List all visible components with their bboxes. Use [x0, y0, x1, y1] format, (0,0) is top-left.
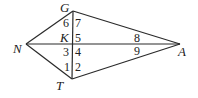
segment-ga [73, 11, 180, 44]
point-label-a: A [177, 44, 186, 59]
angle-label-2: 2 [75, 60, 81, 74]
angle-label-8: 8 [134, 31, 140, 45]
point-label-n: N [12, 41, 23, 56]
point-label-g: G [60, 0, 70, 15]
kite-diagram: G K N T A 6 7 5 3 4 1 2 8 9 [0, 0, 198, 98]
segment-ta [72, 44, 180, 79]
angle-label-7: 7 [75, 16, 81, 30]
angle-label-5: 5 [75, 31, 81, 45]
point-label-t: T [56, 78, 64, 93]
angle-label-1: 1 [64, 60, 70, 74]
angle-label-6: 6 [63, 16, 69, 30]
angle-label-4: 4 [75, 45, 81, 59]
angle-label-9: 9 [134, 44, 140, 58]
segment-gt [72, 11, 73, 79]
point-label-k: K [59, 30, 70, 45]
angle-label-3: 3 [63, 45, 69, 59]
